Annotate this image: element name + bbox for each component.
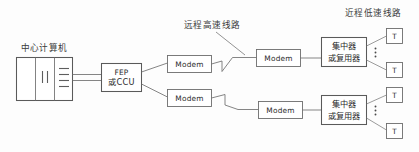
fep-ccu-group: FEP 或CCU bbox=[102, 64, 142, 92]
lower-terminal-wire-2 bbox=[367, 118, 387, 130]
fep-to-lower-modem-wire bbox=[142, 84, 168, 97]
upper-terminal-wire-1 bbox=[367, 36, 387, 46]
lower-terminal-ellipsis bbox=[375, 106, 377, 116]
lower-terminal-label-2: T bbox=[391, 127, 397, 136]
computer-fep-bus bbox=[73, 75, 102, 81]
upper-terminal-label-1: T bbox=[391, 32, 397, 41]
lower-concentrator-label-line2: 或复用器 bbox=[328, 111, 361, 121]
upper-terminal-wire-2 bbox=[367, 60, 387, 70]
remote-highspeed-line-leader bbox=[216, 32, 245, 55]
lower-longhaul-zigzag bbox=[212, 95, 259, 110]
lower-terminal-label-1: T bbox=[391, 91, 397, 100]
upper-terminal-ellipsis bbox=[375, 48, 377, 58]
local-lowspeed-line-label: 近程低速线路 bbox=[345, 7, 401, 18]
upper-longhaul-zigzag bbox=[212, 58, 257, 72]
network-topology-diagram: 中心计算机 FEP 或CCU Modem Modem bbox=[0, 0, 419, 152]
central-computer-group bbox=[17, 58, 73, 101]
upper-branch-group: Modem Modem 集中器 或复用器 T bbox=[168, 29, 403, 78]
upper-terminal-label-2: T bbox=[391, 66, 397, 75]
central-computer-label: 中心计算机 bbox=[21, 42, 68, 53]
upper-concentrator-label-line2: 或复用器 bbox=[328, 53, 361, 63]
upper-concentrator-label-line1: 集中器 bbox=[332, 41, 357, 51]
upper-far-modem-label: Modem bbox=[264, 54, 292, 63]
remote-highspeed-line-label: 远程高速线路 bbox=[184, 19, 240, 30]
fep-label-line2: 或CCU bbox=[108, 77, 134, 87]
lower-branch-group: Modem Modem 集中器 或复用器 T bbox=[168, 88, 403, 139]
diagram-canvas: 中心计算机 FEP 或CCU Modem Modem bbox=[0, 0, 419, 152]
lower-near-modem-label: Modem bbox=[175, 94, 203, 103]
central-computer-box bbox=[17, 58, 73, 101]
upper-near-modem-label: Modem bbox=[175, 60, 203, 69]
fep-to-upper-modem-wire bbox=[142, 63, 168, 72]
lower-concentrator-label-line1: 集中器 bbox=[332, 99, 357, 109]
lower-terminal-wire-1 bbox=[367, 95, 387, 104]
fep-label-line1: FEP bbox=[115, 68, 129, 77]
lower-far-modem-label: Modem bbox=[266, 106, 294, 115]
